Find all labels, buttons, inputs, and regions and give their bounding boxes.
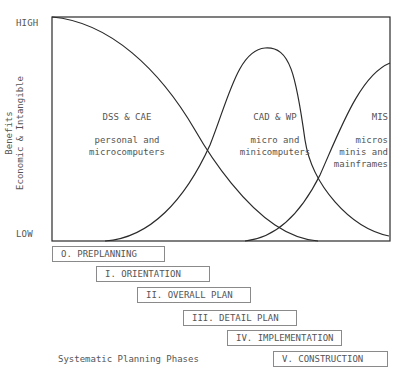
region-line: minicomputers — [220, 146, 330, 158]
region-title: DSS & CAE — [72, 111, 182, 123]
phase-box-overall-plan: II. OVERALL PLAN — [137, 287, 251, 303]
phase-box-preplanning: O. PREPLANNING — [52, 246, 165, 262]
region-title: MIS — [330, 111, 388, 123]
y-axis-label: Benefits Economic & Intangible — [4, 58, 44, 208]
region-dss-cae: DSS & CAE personal and microcomputers — [72, 111, 182, 158]
phase-box-orientation: I. ORIENTATION — [96, 266, 210, 282]
region-line: microcomputers — [72, 146, 182, 158]
region-line: micro and — [220, 134, 330, 146]
region-line: micros — [330, 134, 388, 146]
phase-box-detail-plan: III. DETAIL PLAN — [183, 310, 297, 326]
y-axis-label-line1: Benefits — [4, 58, 15, 208]
region-mis: MIS micros minis and mainframes — [330, 111, 388, 170]
phase-box-construction: V. CONSTRUCTION — [273, 351, 388, 367]
region-title: CAD & WP — [220, 111, 330, 123]
high-label: HIGH — [16, 18, 38, 28]
phase-box-implementation: IV. IMPLEMENTATION — [227, 330, 342, 346]
caption: Systematic Planning Phases — [58, 354, 199, 364]
y-axis-label-line2: Economic & Intangible — [15, 58, 26, 208]
region-cad-wp: CAD & WP micro and minicomputers — [220, 111, 330, 158]
low-label: LOW — [16, 229, 33, 239]
region-line: personal and — [72, 134, 182, 146]
region-line: minis and — [330, 146, 388, 158]
region-line: mainframes — [330, 158, 388, 170]
